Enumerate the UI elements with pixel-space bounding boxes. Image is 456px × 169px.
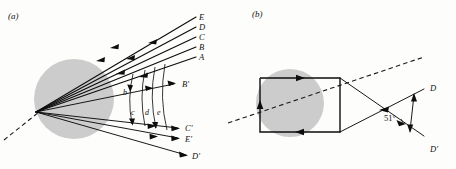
arrowhead-D-prime [179, 152, 188, 158]
ray-label-D: D [198, 22, 206, 32]
ray-label-B-prime: B' [182, 79, 189, 89]
arrowhead-ray-D [96, 57, 105, 62]
arrowhead-wavefront-b [127, 85, 133, 93]
optics-figure: (a) A B [0, 0, 456, 169]
ray-label-D-prime-b: D' [429, 144, 438, 154]
ray-label-E: E [198, 12, 205, 22]
ray-label-D-prime: D' [191, 151, 200, 161]
arrowhead-E-prime [171, 135, 180, 141]
ray-label-A: A [198, 52, 205, 62]
ray-label-C-prime: C' [185, 123, 193, 133]
wavefront-label-e: e [157, 108, 161, 117]
angle-label-51: 51° [384, 113, 396, 123]
wavefront-label-b: b [123, 88, 127, 97]
arrowhead-ray-E2 [110, 44, 119, 49]
wavefront-label-d: d [145, 108, 150, 117]
arrowhead-ray-E [148, 39, 157, 44]
panel-b: (b) D D' [228, 9, 438, 154]
outgoing-arrowheads-a [168, 81, 189, 158]
ray-label-C: C [199, 32, 205, 42]
arrowhead-C-prime [171, 125, 180, 131]
arrowhead-angle-top [411, 93, 417, 102]
wavefront-label-c: c [131, 108, 135, 117]
figure-canvas: (a) A B [0, 0, 456, 169]
panel-b-label: (b) [252, 9, 263, 19]
arrowhead-B-prime-mid [145, 86, 153, 92]
wavefront-d [152, 67, 156, 128]
panel-a: (a) A B [4, 11, 206, 161]
ray-label-B: B [199, 42, 204, 52]
wavefront-e [162, 64, 167, 130]
arrowhead-B-prime [168, 81, 177, 87]
arrowhead-ray-B [116, 70, 125, 75]
panel-a-label: (a) [8, 11, 19, 21]
arrowhead-wavefront-c [129, 119, 135, 126]
water-drop-b [256, 69, 324, 137]
arrowhead-E-prime-mid [150, 134, 159, 140]
arrowhead-angle-bottom [407, 125, 413, 134]
ray-label-E-prime: E' [184, 134, 192, 144]
ray-label-D-b: D [429, 83, 437, 93]
wavefront-c [142, 70, 145, 126]
